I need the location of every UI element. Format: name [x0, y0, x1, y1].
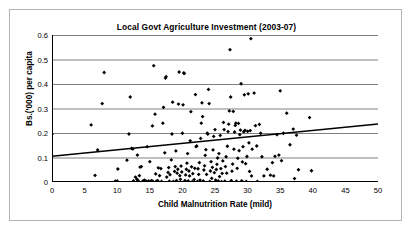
data-point — [244, 162, 248, 166]
data-point — [236, 156, 240, 160]
data-point — [169, 158, 173, 162]
x-axis-tick-label: 40 — [298, 186, 328, 195]
data-point — [102, 71, 106, 75]
data-point — [310, 169, 314, 173]
data-point — [171, 100, 175, 104]
data-point — [249, 37, 253, 41]
data-point — [151, 124, 155, 128]
data-point — [184, 173, 188, 177]
data-point — [177, 102, 181, 106]
data-point — [231, 162, 235, 166]
data-point — [270, 161, 274, 165]
data-point — [196, 167, 200, 171]
scatter-plot-svg — [52, 35, 378, 182]
data-point — [226, 130, 230, 134]
plot-area — [52, 35, 378, 182]
data-point — [224, 165, 228, 169]
data-point — [230, 169, 234, 173]
y-axis-tick-labels: 00.10.20.30.40.50.6 — [18, 35, 48, 182]
y-axis-tick-label: 0.6 — [22, 31, 48, 40]
data-point — [239, 128, 243, 132]
data-point — [203, 153, 207, 157]
data-point — [181, 131, 185, 135]
data-point — [201, 115, 205, 119]
data-point — [288, 143, 292, 147]
data-point — [188, 174, 192, 178]
data-point — [180, 170, 184, 174]
data-point — [209, 169, 213, 173]
data-point — [176, 167, 180, 171]
data-point — [232, 147, 236, 151]
data-point — [153, 112, 157, 116]
x-axis-tick-label: 25 — [200, 186, 230, 195]
data-point — [222, 121, 226, 125]
data-point — [152, 64, 156, 68]
data-point — [262, 174, 266, 178]
y-axis-tick-label: 0.4 — [22, 80, 48, 89]
data-point — [194, 93, 198, 97]
x-axis-title: Child Malnutrition Rate (mild) — [52, 200, 378, 209]
data-point — [197, 173, 201, 177]
data-point — [127, 132, 131, 136]
data-point — [181, 103, 185, 107]
x-axis-tick-label: 5 — [70, 186, 100, 195]
data-point — [207, 87, 211, 91]
data-point — [241, 145, 245, 149]
data-point — [128, 95, 132, 99]
data-point — [272, 174, 276, 178]
x-axis-tick-label: 10 — [102, 186, 132, 195]
data-point — [293, 177, 297, 181]
data-point — [197, 161, 201, 165]
data-point — [218, 134, 222, 138]
x-axis-tick-labels: 05101520253035404550 — [52, 186, 378, 198]
data-point — [154, 172, 158, 176]
data-point — [248, 170, 252, 174]
data-point — [269, 173, 273, 177]
data-point — [219, 167, 223, 171]
data-point — [291, 127, 295, 131]
data-point — [204, 148, 208, 152]
x-axis-tick-label: 30 — [233, 186, 263, 195]
data-point — [177, 70, 181, 74]
data-point — [205, 173, 209, 177]
data-point — [136, 153, 140, 157]
data-point — [173, 165, 177, 169]
data-point — [285, 111, 289, 115]
data-point — [93, 173, 97, 177]
data-point — [210, 176, 214, 180]
data-point — [250, 147, 254, 151]
x-axis-tick-label: 15 — [135, 186, 165, 195]
data-point — [211, 148, 215, 152]
data-point — [207, 102, 211, 106]
data-point — [221, 159, 225, 163]
data-point — [229, 95, 233, 99]
data-point — [203, 164, 207, 168]
data-point — [228, 48, 232, 52]
data-point — [185, 161, 189, 165]
data-point — [167, 166, 171, 170]
x-axis-tick-label: 50 — [363, 186, 393, 195]
data-point — [199, 121, 203, 125]
data-point — [212, 171, 216, 175]
data-point — [297, 168, 301, 172]
data-point — [239, 82, 243, 86]
data-point — [220, 172, 224, 176]
data-point — [158, 174, 162, 178]
y-axis-tick-label: 0.3 — [22, 104, 48, 113]
data-point — [247, 141, 251, 145]
data-point — [200, 101, 204, 105]
data-point — [216, 156, 220, 160]
data-point — [242, 93, 246, 97]
data-point — [165, 175, 169, 179]
data-point — [215, 162, 219, 166]
data-point — [209, 160, 213, 164]
data-point — [259, 131, 263, 135]
data-point — [227, 122, 231, 126]
data-point — [252, 91, 256, 95]
data-point — [217, 152, 221, 156]
data-point — [179, 177, 183, 181]
data-point — [278, 89, 282, 93]
data-point — [222, 128, 226, 132]
data-point — [202, 168, 206, 172]
data-point — [308, 116, 312, 120]
